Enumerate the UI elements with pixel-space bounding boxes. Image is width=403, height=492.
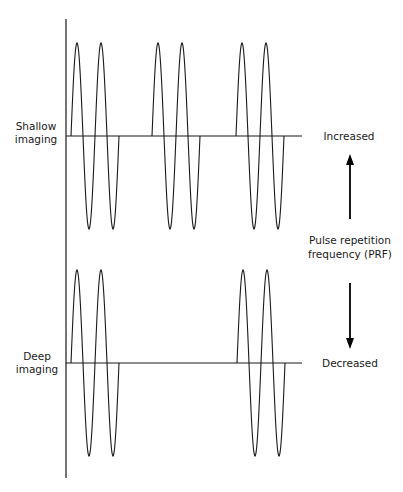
prf-label-line1: Pulse repetition bbox=[309, 234, 391, 246]
deep-label-line1: Deep bbox=[23, 350, 51, 362]
down-arrow-icon bbox=[346, 283, 354, 349]
decreased-label: Decreased bbox=[322, 357, 378, 369]
shallow-label-line2: imaging bbox=[15, 133, 57, 145]
increased-label: Increased bbox=[323, 130, 374, 142]
prf-label-line2: frequency (PRF) bbox=[308, 248, 392, 260]
prf-diagram: Shallow imaging Deep imaging Increased P… bbox=[0, 0, 403, 492]
deep-label-line2: imaging bbox=[16, 363, 58, 375]
up-arrow-icon bbox=[346, 154, 354, 219]
shallow-label-line1: Shallow bbox=[16, 120, 57, 132]
